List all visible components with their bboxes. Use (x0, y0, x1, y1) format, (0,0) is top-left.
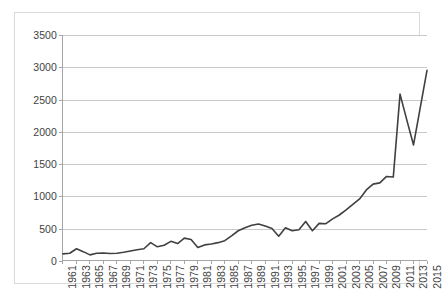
x-tick-label: 1987 (242, 265, 254, 289)
plot-area (62, 35, 427, 261)
x-tick-label: 1975 (161, 265, 173, 289)
x-tick-mark (359, 261, 360, 264)
x-tick-mark (305, 261, 306, 264)
x-tick-mark (413, 261, 414, 264)
x-tick-label: 1993 (282, 265, 294, 289)
x-tick-mark (211, 261, 212, 264)
x-tick-label: 1997 (309, 265, 321, 289)
x-tick-mark (386, 261, 387, 264)
line-series-svg (63, 35, 427, 260)
x-tick-mark (346, 261, 347, 264)
x-tick-mark (170, 261, 171, 264)
x-tick-label: 1991 (269, 265, 281, 289)
y-tick-label: 0 (51, 255, 57, 267)
x-tick-mark (103, 261, 104, 264)
x-tick-mark (292, 261, 293, 264)
x-tick-label: 1971 (134, 265, 146, 289)
y-tick-label: 2000 (33, 126, 57, 138)
y-axis: 0500100015002000250030003500 (15, 13, 62, 283)
x-tick-mark (184, 261, 185, 264)
y-tick-label: 2500 (33, 94, 57, 106)
y-tick-label: 500 (39, 223, 57, 235)
x-tick-mark (224, 261, 225, 264)
x-tick-mark (157, 261, 158, 264)
x-tick-label: 1965 (93, 265, 105, 289)
x-axis: 1961196319651967196919711973197519771979… (62, 261, 427, 301)
x-tick-label: 1979 (188, 265, 200, 289)
line-series-path (63, 70, 427, 255)
x-tick-label: 2015 (431, 265, 443, 289)
x-tick-label: 1977 (174, 265, 186, 289)
x-tick-label: 1999 (323, 265, 335, 289)
x-tick-label: 1995 (296, 265, 308, 289)
x-tick-mark (265, 261, 266, 264)
x-tick-mark (238, 261, 239, 264)
x-tick-mark (373, 261, 374, 264)
x-tick-label: 1961 (66, 265, 78, 289)
x-tick-label: 1969 (120, 265, 132, 289)
x-tick-mark (427, 261, 428, 264)
x-tick-mark (130, 261, 131, 264)
y-tick-label: 3500 (33, 29, 57, 41)
x-tick-label: 1963 (80, 265, 92, 289)
x-tick-mark (197, 261, 198, 264)
x-tick-mark (319, 261, 320, 264)
x-tick-label: 1973 (147, 265, 159, 289)
x-tick-label: 2013 (417, 265, 429, 289)
x-tick-label: 1983 (215, 265, 227, 289)
x-tick-label: 2007 (377, 265, 389, 289)
x-tick-label: 1989 (255, 265, 267, 289)
chart-frame: 0500100015002000250030003500 19611963196… (14, 12, 420, 284)
x-tick-mark (62, 261, 63, 264)
y-tick-label: 3000 (33, 61, 57, 73)
x-tick-mark (76, 261, 77, 264)
x-tick-mark (278, 261, 279, 264)
x-tick-label: 2005 (363, 265, 375, 289)
x-tick-label: 2001 (336, 265, 348, 289)
x-tick-label: 1981 (201, 265, 213, 289)
y-tick-label: 1000 (33, 190, 57, 202)
x-tick-label: 2011 (404, 265, 416, 288)
x-tick-mark (400, 261, 401, 264)
x-tick-mark (89, 261, 90, 264)
x-tick-label: 2009 (390, 265, 402, 289)
x-tick-label: 1967 (107, 265, 119, 289)
x-tick-label: 2003 (350, 265, 362, 289)
x-tick-mark (251, 261, 252, 264)
x-tick-mark (332, 261, 333, 264)
x-tick-mark (143, 261, 144, 264)
x-tick-mark (116, 261, 117, 264)
x-tick-label: 1985 (228, 265, 240, 289)
y-tick-label: 1500 (33, 158, 57, 170)
